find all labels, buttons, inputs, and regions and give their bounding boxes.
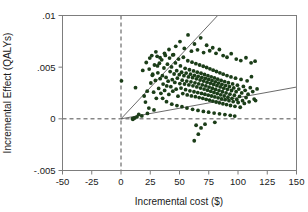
- scatter-point: [191, 107, 195, 111]
- scatter-point: [187, 83, 191, 87]
- x-tick-labels-group: -50-250255075100125150: [56, 176, 305, 187]
- scatter-point: [205, 66, 209, 70]
- scatter-point: [156, 71, 160, 75]
- scatter-point: [218, 112, 222, 116]
- scatter-point: [221, 90, 225, 94]
- scatter-point: [247, 100, 251, 104]
- scatter-point: [216, 96, 220, 100]
- scatter-point: [217, 89, 221, 93]
- scatter-point: [202, 51, 206, 55]
- scatter-point: [161, 74, 165, 78]
- scatter-point: [166, 79, 170, 83]
- scatter-point: [163, 51, 167, 55]
- scatter-point: [175, 69, 179, 73]
- scatter-point: [199, 126, 203, 130]
- scatter-point: [193, 81, 197, 85]
- scatter-point: [180, 78, 184, 82]
- scatter-point: [190, 49, 194, 53]
- scatter-point: [168, 70, 172, 74]
- scatter-point: [147, 106, 151, 110]
- scatter-points-group: [120, 33, 259, 143]
- scatter-point: [216, 77, 220, 81]
- scatter-point: [178, 82, 182, 86]
- scatter-point: [192, 90, 196, 94]
- scatter-point: [206, 93, 210, 97]
- scatter-point: [147, 67, 151, 71]
- scatter-point: [174, 44, 178, 48]
- scatter-point: [193, 73, 197, 77]
- scatter-point: [236, 101, 240, 105]
- scatter-point: [225, 74, 229, 78]
- scatter-point: [190, 94, 194, 98]
- y-axis-title: Incremental Effect (QALYs): [2, 33, 13, 154]
- scatter-point: [149, 81, 153, 85]
- scatter-point: [154, 78, 158, 82]
- scatter-point: [231, 100, 235, 104]
- scatter-point: [192, 139, 196, 143]
- scatter-point: [159, 91, 163, 95]
- scatter-point: [131, 117, 135, 121]
- scatter-point: [231, 82, 235, 86]
- scatter-point: [178, 40, 182, 44]
- scatter-point: [215, 70, 219, 74]
- scatter-point: [223, 80, 227, 84]
- scatter-point: [120, 79, 124, 83]
- scatter-point: [255, 87, 259, 91]
- scatter-point: [221, 72, 225, 76]
- scatter-point: [188, 68, 192, 72]
- y-tick-label: .01: [42, 10, 55, 21]
- scatter-point: [171, 89, 175, 93]
- scatter-point: [170, 65, 174, 69]
- scatter-point: [232, 93, 236, 97]
- x-tick-label: -50: [56, 176, 70, 187]
- scatter-point: [229, 52, 233, 56]
- scatter-point: [206, 74, 210, 78]
- scatter-point: [248, 86, 252, 90]
- scatter-point: [201, 109, 205, 113]
- scatter-point: [144, 61, 148, 65]
- scatter-point: [150, 73, 154, 77]
- scatter-point: [251, 90, 255, 94]
- plot-canvas: -50-250255075100125150 -.0050.005.01 Inc…: [0, 0, 308, 212]
- scatter-point: [211, 68, 215, 72]
- scatter-point: [167, 93, 171, 97]
- scatter-point: [146, 112, 150, 116]
- x-axis-title: Incremental cost ($): [135, 196, 223, 207]
- scatter-point: [194, 123, 198, 127]
- scatter-point: [211, 99, 215, 103]
- scatter-point: [184, 71, 188, 75]
- scatter-point: [156, 64, 160, 68]
- scatter-point: [174, 87, 178, 91]
- scatter-point: [205, 43, 209, 47]
- scatter-point: [200, 83, 204, 87]
- scatter-point: [179, 64, 183, 68]
- scatter-point: [172, 72, 176, 76]
- scatter-point: [218, 101, 222, 105]
- scatter-point: [152, 108, 156, 112]
- x-tick-label: 100: [230, 176, 246, 187]
- scatter-point: [208, 67, 212, 71]
- scatter-point: [244, 56, 248, 60]
- y-tick-label: .005: [37, 62, 56, 73]
- scatter-point: [220, 82, 224, 86]
- scatter-point: [157, 87, 161, 91]
- scatter-point: [181, 55, 185, 59]
- scatter-point: [197, 82, 201, 86]
- scatter-point: [194, 62, 198, 66]
- scatter-point: [173, 81, 177, 85]
- scatter-point: [213, 120, 217, 124]
- scatter-point: [135, 115, 139, 119]
- scatter-point: [185, 79, 189, 83]
- scatter-point: [196, 91, 200, 95]
- scatter-point: [175, 76, 179, 80]
- scatter-point: [229, 104, 233, 108]
- threshold-ray-lines-group: [121, 16, 297, 119]
- scatter-point: [239, 59, 243, 63]
- scatter-point: [170, 78, 174, 82]
- scatter-point: [158, 56, 162, 60]
- scatter-point: [196, 132, 200, 136]
- scatter-point: [161, 96, 165, 100]
- scatter-point: [224, 84, 228, 88]
- scatter-point: [229, 75, 233, 79]
- scatter-point: [150, 54, 154, 58]
